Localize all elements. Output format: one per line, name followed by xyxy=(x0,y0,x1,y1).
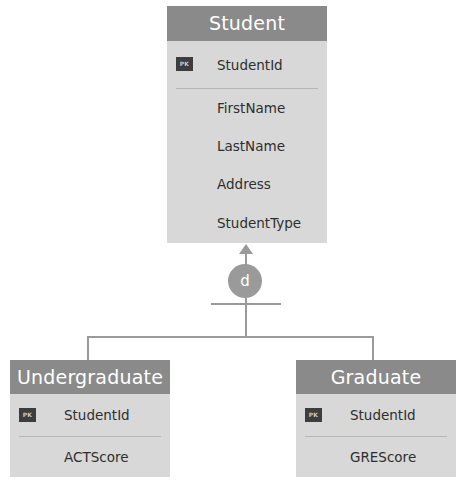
attribute-row[interactable]: Address xyxy=(167,165,327,203)
attribute-row[interactable]: StudentType xyxy=(167,203,327,243)
connector-split-bar xyxy=(87,336,374,338)
entity-graduate-header: Graduate xyxy=(296,360,456,394)
attribute-label: StudentId xyxy=(217,57,283,73)
entity-student[interactable]: Student PK StudentId FirstName LastName … xyxy=(167,6,327,243)
primary-key-badge: PK xyxy=(19,408,36,422)
attribute-row[interactable]: ACTScore xyxy=(10,437,170,477)
attribute-label: GREScore xyxy=(350,449,416,465)
attribute-label: StudentType xyxy=(217,215,301,231)
attribute-label: StudentId xyxy=(350,407,416,423)
er-diagram-canvas: Student PK StudentId FirstName LastName … xyxy=(0,0,468,491)
entity-graduate-body: PK StudentId GREScore xyxy=(296,394,456,477)
entity-undergraduate[interactable]: Undergraduate PK StudentId ACTScore xyxy=(10,360,170,477)
attribute-row[interactable]: FirstName xyxy=(167,89,327,127)
attribute-row[interactable]: GREScore xyxy=(296,437,456,477)
primary-key-badge: PK xyxy=(305,408,322,422)
attribute-label: ACTScore xyxy=(64,449,128,465)
attribute-row[interactable]: PK StudentId xyxy=(167,41,327,88)
attribute-label: LastName xyxy=(217,138,285,154)
inheritance-arrow-icon xyxy=(239,244,253,254)
attribute-row[interactable]: LastName xyxy=(167,127,327,165)
connector-line-graduate xyxy=(372,336,374,361)
entity-student-header: Student xyxy=(167,6,327,41)
attribute-label: Address xyxy=(217,176,271,192)
attribute-label: StudentId xyxy=(64,407,130,423)
connector-line-subtype-stem xyxy=(245,298,247,336)
entity-undergraduate-header: Undergraduate xyxy=(10,360,170,394)
entity-undergraduate-body: PK StudentId ACTScore xyxy=(10,394,170,477)
attribute-row[interactable]: PK StudentId xyxy=(296,394,456,436)
entity-graduate[interactable]: Graduate PK StudentId GREScore xyxy=(296,360,456,477)
connector-line-undergraduate xyxy=(87,336,89,361)
disjoint-constraint-symbol: d xyxy=(228,264,262,298)
primary-key-badge: PK xyxy=(176,57,193,71)
attribute-row[interactable]: PK StudentId xyxy=(10,394,170,436)
entity-student-body: PK StudentId FirstName LastName Address … xyxy=(167,41,327,243)
attribute-label: FirstName xyxy=(217,100,285,116)
